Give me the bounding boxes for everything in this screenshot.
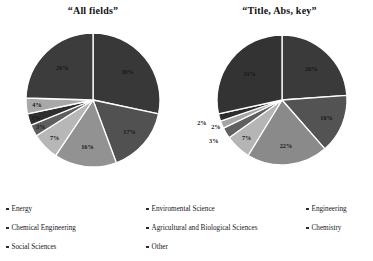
legend-item-other: Other (146, 243, 306, 252)
pie-chart-figure: “All fields” 30%17%16%7%3%3%4%26% “Title… (0, 0, 373, 261)
slice-percent-label: 22% (279, 142, 291, 149)
slice-percent-label: 7% (241, 134, 250, 141)
legend: Energy Enviromental Science Engineering … (0, 196, 373, 261)
chart-title-all-fields: “All fields” (68, 5, 118, 16)
slice-percent-label: 7% (50, 134, 59, 141)
pie-wrap-title-abs-key: 26%16%22%7%3%2%2%31% (187, 17, 373, 189)
pie-wrap-all-fields: 30%17%16%7%3%3%4%26% (0, 17, 186, 189)
legend-item-chemical-engineering: Chemical Engineering (6, 224, 146, 233)
legend-label: Energy (12, 205, 33, 214)
bullet-icon (146, 208, 149, 211)
slice-percent-label: 16% (81, 143, 93, 150)
legend-label: Agricultural and Biological Sciences (152, 224, 258, 233)
slice-percent-label: 2% (211, 123, 220, 130)
slice-percent-label: 3% (36, 123, 45, 130)
bullet-icon (6, 246, 9, 249)
bullet-icon (6, 208, 9, 211)
legend-label: Chemistry (312, 224, 342, 233)
legend-label: Social Sciences (12, 243, 57, 252)
legend-item-energy: Energy (6, 205, 146, 214)
slice-percent-label: 2% (197, 119, 206, 126)
bullet-icon (6, 227, 9, 230)
legend-item-chemistry: Chemistry (306, 224, 373, 233)
legend-label: Other (152, 243, 168, 252)
slice-percent-label: 17% (123, 128, 135, 135)
bullet-icon (306, 227, 309, 230)
slice-percent-label: 31% (243, 70, 255, 77)
chart-title-abs-key: “Title, Abs, key” 26%16%22%7%3%2%2%31% (186, 0, 373, 196)
chart-all-fields: “All fields” 30%17%16%7%3%3%4%26% (0, 0, 186, 196)
slice-percent-label: 26% (305, 65, 317, 72)
legend-label: Engineering (312, 205, 347, 214)
legend-item-agricultural-and-biological-sciences: Agricultural and Biological Sciences (146, 224, 306, 233)
pie-svg-all-fields: 30%17%16%7%3%3%4%26% (0, 17, 186, 189)
legend-label: Chemical Engineering (12, 224, 76, 233)
charts-row: “All fields” 30%17%16%7%3%3%4%26% “Title… (0, 0, 373, 196)
pie-svg-title-abs-key: 26%16%22%7%3%2%2%31% (187, 17, 373, 189)
slice-percent-label: 30% (121, 68, 133, 75)
slice-percent-label: 3% (31, 114, 40, 121)
legend-item-enviromental-science: Enviromental Science (146, 205, 306, 214)
legend-grid: Energy Enviromental Science Engineering … (6, 200, 367, 257)
legend-item-engineering: Engineering (306, 205, 373, 214)
slice-percent-label: 16% (320, 114, 332, 121)
legend-item-social-sciences: Social Sciences (6, 243, 146, 252)
bullet-icon (306, 208, 309, 211)
chart-title-title-abs-key: “Title, Abs, key” (242, 5, 316, 16)
slice-percent-label: 3% (209, 137, 218, 144)
bullet-icon (146, 227, 149, 230)
legend-label: Enviromental Science (152, 205, 215, 214)
slice-percent-label: 26% (56, 64, 68, 71)
bullet-icon (146, 246, 149, 249)
slice-percent-label: 4% (32, 101, 41, 108)
